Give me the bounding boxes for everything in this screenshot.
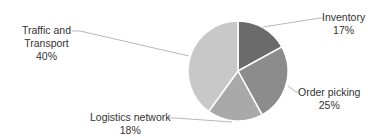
label-logistics-pct: 18%: [90, 124, 171, 137]
label-order-picking: Order picking 25%: [298, 86, 360, 112]
leader-line-traffic: [72, 31, 189, 56]
label-logistics-name: Logistics network: [90, 111, 171, 124]
label-logistics-network: Logistics network 18%: [90, 111, 171, 137]
label-inventory-name: Inventory: [322, 11, 365, 24]
label-order-picking-pct: 25%: [298, 99, 360, 112]
label-traffic-line1: Traffic and: [22, 24, 71, 37]
label-traffic-pct: 40%: [22, 50, 71, 63]
label-order-picking-name: Order picking: [298, 86, 360, 99]
leader-line-inventory: [263, 18, 323, 27]
label-inventory: Inventory 17%: [322, 11, 365, 37]
pie-slices: [188, 21, 288, 121]
label-traffic-transport: Traffic and Transport 40%: [22, 24, 71, 63]
label-inventory-pct: 17%: [322, 24, 365, 37]
label-traffic-line2: Transport: [22, 37, 71, 50]
